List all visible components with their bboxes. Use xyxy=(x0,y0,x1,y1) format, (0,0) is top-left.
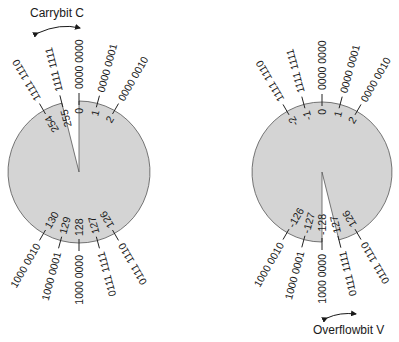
binary-label: 1000 0010 xyxy=(251,240,286,289)
binary-label: 0000 0010 xyxy=(115,54,150,103)
binary-label: 0000 0000 xyxy=(73,39,85,89)
binary-label: 1000 0010 xyxy=(7,241,42,290)
binary-label: 0111 1110 xyxy=(358,240,392,286)
binary-label: 1000 0001 xyxy=(39,250,63,301)
binary-label: 0000 0010 xyxy=(358,55,393,104)
binary-label: 1111 1111 xyxy=(42,46,65,93)
unsigned-wheel: 1111 11102541111 11112550000 000000000 0… xyxy=(7,39,150,304)
overflowbit-label: Overflowbit V xyxy=(313,323,384,337)
binary-label: 1000 0000 xyxy=(316,254,328,304)
carry-arrow-icon xyxy=(38,26,80,33)
decimal-label: 0 xyxy=(316,109,328,115)
decimal-label: 0 xyxy=(73,108,85,114)
signed-wheel: 1111 1110-21111 1111-10000 000000000 000… xyxy=(251,40,393,303)
binary-label: 0111 1110 xyxy=(115,241,149,287)
binary-label: 1000 0000 xyxy=(73,255,85,305)
decimal-label: 128 xyxy=(73,218,85,236)
binary-label: 0111 1111 xyxy=(95,250,118,297)
overflow-arrow-icon xyxy=(327,314,356,319)
binary-label: 0000 0001 xyxy=(95,42,119,93)
binary-label: 1111 1110 xyxy=(9,57,42,103)
number-wheel-diagram: 1111 11102541111 11112550000 000000000 0… xyxy=(0,0,399,342)
binary-label: 1111 1110 xyxy=(253,58,286,104)
decimal-label: -128 xyxy=(316,214,328,235)
binary-label: 0000 0000 xyxy=(316,40,328,90)
binary-label: 1000 0001 xyxy=(282,250,306,301)
carrybit-label: Carrybit C xyxy=(30,6,84,20)
binary-label: 1111 1111 xyxy=(283,48,306,95)
binary-label: 0000 0001 xyxy=(337,43,361,94)
binary-label: 0111 1111 xyxy=(336,250,359,297)
